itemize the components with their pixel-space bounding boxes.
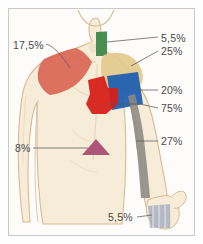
- label-hand: 5,5%: [108, 212, 133, 223]
- label-arm: 27%: [161, 136, 183, 147]
- label-shoulder-right: 25%: [161, 46, 183, 57]
- region-neck: [96, 31, 107, 56]
- label-chest: 75%: [161, 103, 183, 114]
- label-sternum: 8%: [15, 143, 31, 154]
- region-hand: [148, 204, 170, 228]
- label-neck: 5,5%: [161, 33, 186, 44]
- leader-line-shoulder-right: [131, 51, 158, 66]
- figure-root: 17,5% 8% 5,5% 25% 20% 75% 27% 5,5%: [0, 0, 203, 244]
- label-deltoid: 20%: [161, 85, 183, 96]
- label-shoulder-left: 17,5%: [13, 40, 44, 51]
- leader-line-neck: [107, 37, 158, 42]
